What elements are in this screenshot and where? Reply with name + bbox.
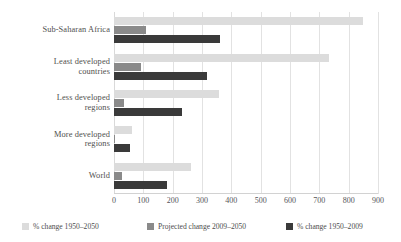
bar-group [114, 17, 378, 45]
bar [114, 99, 124, 107]
legend-swatch-icon [147, 223, 154, 230]
legend-item[interactable]: % change 1950–2009 [286, 222, 363, 231]
bar [114, 126, 132, 134]
category-label-line: Less developed [0, 93, 110, 103]
bar [114, 172, 122, 180]
category-label-line: countries [0, 67, 110, 77]
category-label-line: World [0, 171, 110, 181]
x-tick-label: 300 [196, 196, 208, 205]
bar [114, 63, 141, 71]
bar [114, 72, 207, 80]
legend-item[interactable]: % change 1950–2050 [22, 222, 99, 231]
legend-item[interactable]: Projected change 2009–2050 [147, 222, 246, 231]
category-label-line: More developed [0, 130, 110, 140]
legend-label: % change 1950–2009 [297, 222, 363, 231]
gridline-900 [378, 12, 379, 194]
legend-label: % change 1950–2050 [33, 222, 99, 231]
bar [114, 35, 220, 43]
plot-area [114, 12, 378, 194]
bar-group [114, 126, 378, 154]
chart-legend: % change 1950–2050Projected change 2009–… [0, 222, 401, 236]
category-label: Least developedcountries [0, 57, 110, 76]
x-tick-label: 400 [225, 196, 237, 205]
x-tick-label: 900 [372, 196, 384, 205]
bar [114, 163, 191, 171]
legend-swatch-icon [22, 223, 29, 230]
x-tick-label: 500 [255, 196, 267, 205]
bar [114, 17, 363, 25]
x-tick-label: 600 [284, 196, 296, 205]
category-label-line: regions [0, 103, 110, 113]
x-tick-label: 700 [313, 196, 325, 205]
bar-group [114, 90, 378, 118]
bar [114, 135, 115, 143]
category-label: More developedregions [0, 130, 110, 149]
category-label: Sub-Saharan Africa [0, 25, 110, 35]
bar-group [114, 163, 378, 191]
category-label-line: Least developed [0, 57, 110, 67]
category-label-line: regions [0, 139, 110, 149]
bar [114, 90, 219, 98]
category-axis-labels: Sub-Saharan AfricaLeast developedcountri… [0, 12, 110, 194]
bar [114, 54, 329, 62]
x-tick-label: 800 [343, 196, 355, 205]
bar-group [114, 54, 378, 82]
bar [114, 108, 182, 116]
bar-chart: Sub-Saharan AfricaLeast developedcountri… [0, 0, 401, 242]
x-axis-tick-labels: 0100200300400500600700800900 [114, 196, 378, 208]
category-label-line: Sub-Saharan Africa [0, 25, 110, 35]
x-axis-line [114, 193, 378, 194]
legend-swatch-icon [286, 223, 293, 230]
category-label: Less developedregions [0, 93, 110, 112]
bar [114, 181, 167, 189]
bar [114, 144, 130, 152]
x-tick-label: 100 [137, 196, 149, 205]
bar [114, 26, 146, 34]
legend-label: Projected change 2009–2050 [158, 222, 246, 231]
category-label: World [0, 171, 110, 181]
x-tick-label: 0 [112, 196, 116, 205]
x-tick-label: 200 [167, 196, 179, 205]
